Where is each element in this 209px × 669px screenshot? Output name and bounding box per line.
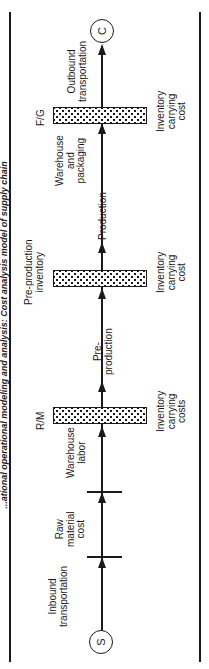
arrow-production-icon — [98, 242, 106, 253]
outbound-transportation-label: Outbound transportation — [67, 41, 88, 102]
supplier-node-label: S — [90, 631, 112, 653]
production-label: Production — [98, 192, 109, 240]
arrow-preproduction-icon — [98, 381, 106, 392]
inventory-bar-rm — [53, 407, 147, 424]
inventory-bar-fg — [53, 107, 147, 124]
flow-line-inbound — [101, 424, 103, 632]
segment-divider — [87, 491, 122, 493]
raw-material-cost-label: Raw material cost — [55, 511, 87, 547]
inventory-bar-preproduction — [53, 270, 147, 287]
rm-label: R/M — [36, 412, 47, 430]
customer-node: C — [90, 19, 114, 43]
warehouse-labor-label: Warehouse labor — [66, 427, 87, 478]
segment-divider — [87, 556, 122, 558]
flow-line-outbound — [101, 46, 103, 107]
arrow-raw-material-icon — [98, 492, 106, 503]
inbound-transportation-label: Inbound transportation — [48, 566, 69, 627]
arrow-to-preproduction-icon — [98, 288, 106, 299]
warehouse-packaging-label: Warehouse and packaging — [55, 135, 87, 186]
preproduction-carrying-cost-label: Inventory carrying cost — [156, 252, 188, 293]
preproduction-flow-label: Pre- production — [93, 328, 114, 375]
arrow-to-customer-icon — [98, 44, 106, 55]
supplier-node: S — [89, 630, 113, 654]
figure-title: ...ational operational modeling and anal… — [0, 5, 9, 665]
arrow-to-rm-icon — [98, 426, 106, 437]
rm-carrying-cost-label: Inventory carrying costs — [156, 391, 188, 432]
customer-node-label: C — [91, 20, 113, 42]
fg-carrying-cost-label: Inventory carrying cost — [156, 91, 188, 132]
left-border-line — [9, 12, 11, 662]
arrow-inbound-icon — [98, 557, 106, 568]
arrow-to-fg-icon — [98, 123, 106, 134]
fg-label: F/G — [36, 109, 47, 126]
preproduction-inventory-label: Pre-production inventory — [24, 239, 45, 305]
right-border-line — [199, 12, 201, 662]
